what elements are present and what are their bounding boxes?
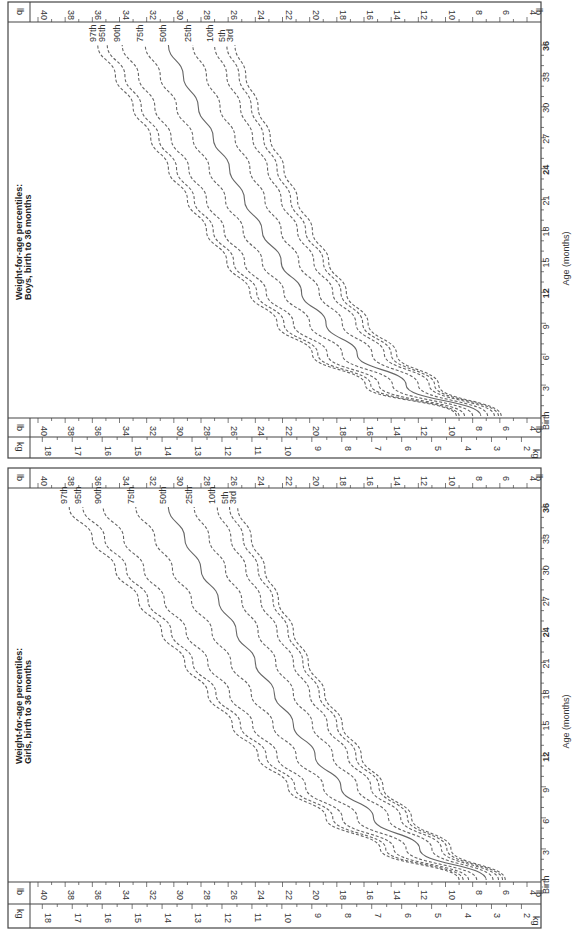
age-tick-label: 3 (541, 850, 551, 855)
percentile-label: 10th (207, 486, 217, 504)
kg-tick-label: 16 (103, 446, 113, 456)
percentile-curve-5th (227, 45, 499, 416)
lb-tick-label: 16 (365, 890, 375, 900)
age-tick-label: Birth (541, 411, 551, 430)
lb-tick-label: 6 (501, 890, 511, 895)
kg-tick-label: 5 (433, 446, 443, 451)
girls-weight-chart: 4466881010121214141616181820202222242426… (8, 468, 571, 928)
kg-tick-label: 17 (73, 446, 83, 456)
lb-tick-label: 24 (256, 476, 266, 486)
percentile-curve-25th (193, 45, 488, 416)
kg-tick-label: 2 (522, 446, 532, 451)
lb-tick-label: 28 (202, 426, 212, 436)
lb-tick-label: 32 (148, 890, 158, 900)
kg-tick-label: 12 (223, 446, 233, 456)
percentile-label: 25th (183, 24, 193, 42)
percentile-curve-75th (145, 45, 472, 416)
lb-tick-label: 8 (474, 890, 484, 895)
lb-tick-label: 30 (175, 890, 185, 900)
lb-tick-label: 22 (284, 10, 294, 20)
percentile-curve-3rd (235, 45, 501, 416)
lb-tick-label: 14 (392, 476, 402, 486)
kg-tick-label: 3 (492, 913, 502, 918)
kg-tick-label: 15 (133, 446, 143, 456)
percentile-curve-90th (122, 45, 464, 416)
age-tick-label: 6 (541, 819, 551, 824)
boys-weight-chart: 4466881010121214141616181820202222242426… (8, 2, 571, 459)
lb-tick-label: 18 (338, 10, 348, 20)
age-tick-label: 15 (541, 257, 551, 267)
lb-tick-label: 10 (447, 476, 457, 486)
percentile-curve-10th (217, 507, 498, 880)
lb-tick-label: 36 (93, 426, 103, 436)
age-tick-label: 18 (541, 226, 551, 236)
percentile-label: 25th (184, 486, 194, 504)
kg-tick-label: 2 (522, 913, 532, 918)
lb-unit-label: lb (15, 8, 25, 15)
age-tick-label: 15 (541, 721, 551, 731)
percentile-curve-95th (83, 507, 463, 880)
age-tick-label: 27 (541, 134, 551, 144)
kg-unit-label: kg (15, 909, 25, 919)
lb-tick-label: 22 (284, 476, 294, 486)
lb-tick-label: 38 (66, 476, 76, 486)
chart-subtitle: Boys, birth to 36 months (23, 194, 33, 300)
percentile-label: 3rd (228, 491, 238, 504)
lb-unit-label: lb (15, 888, 25, 895)
kg-tick-label: 15 (133, 913, 143, 923)
lb-tick-label: 16 (365, 10, 375, 20)
lb-tick-label: 28 (202, 890, 212, 900)
lb-unit-label: lb (15, 424, 25, 431)
lb-tick-label: 26 (229, 476, 239, 486)
lb-tick-label: 14 (392, 10, 402, 20)
lb-tick-label: 20 (311, 476, 321, 486)
kg-tick-label: 18 (43, 446, 53, 456)
lb-tick-label: 10 (447, 426, 457, 436)
lb-tick-label: 28 (202, 476, 212, 486)
lb-tick-label: 26 (229, 10, 239, 20)
x-axis-title: Age (months) (561, 231, 571, 285)
age-tick-label: 12 (541, 752, 551, 762)
percentile-curve-50th (168, 45, 480, 416)
chart-subtitle: Girls, birth to 36 months (23, 660, 33, 764)
percentile-label: 75th (126, 486, 136, 504)
percentile-label: 90th (112, 24, 122, 42)
lb-tick-label: 8 (474, 476, 484, 481)
x-axis-title: Age (months) (561, 694, 571, 748)
kg-tick-label: 13 (193, 446, 203, 456)
lb-tick-label: 36 (93, 890, 103, 900)
age-tick-label: 12 (541, 288, 551, 298)
lb-tick-label: 12 (419, 890, 429, 900)
lb-unit-label: lb (15, 474, 25, 481)
percentile-curve-10th (215, 45, 495, 416)
lb-tick-label: 6 (501, 10, 511, 15)
age-tick-label: 33 (541, 72, 551, 82)
lb-tick-label: 30 (175, 10, 185, 20)
age-tick-label: 30 (541, 565, 551, 575)
age-tick-label: 3 (541, 386, 551, 391)
lb-tick-label: 40 (39, 476, 49, 486)
kg-tick-label: 10 (283, 913, 293, 923)
lb-tick-label: 8 (474, 10, 484, 15)
lb-tick-label: 32 (148, 476, 158, 486)
lb-tick-label: 32 (148, 10, 158, 20)
lb-tick-label: 26 (229, 890, 239, 900)
lb-tick-label: 18 (338, 890, 348, 900)
lb-tick-label: 36 (93, 10, 103, 20)
chart-frame (8, 2, 541, 458)
lb-tick-label: 12 (419, 476, 429, 486)
lb-tick-label: 16 (365, 426, 375, 436)
kg-unit-label: kg (531, 916, 541, 926)
lb-tick-label: 20 (311, 10, 321, 20)
age-tick-label: 9 (541, 788, 551, 793)
age-tick-label: Birth (541, 875, 551, 894)
lb-tick-label: 24 (256, 10, 266, 20)
lb-tick-label: 6 (501, 476, 511, 481)
age-tick-label: 18 (541, 689, 551, 699)
kg-unit-label: kg (15, 442, 25, 452)
percentile-label: 75th (135, 24, 145, 42)
lb-tick-label: 38 (66, 890, 76, 900)
age-tick-label: 24 (541, 165, 551, 175)
percentile-label: 50th (158, 486, 168, 504)
percentile-curve-95th (107, 45, 459, 416)
